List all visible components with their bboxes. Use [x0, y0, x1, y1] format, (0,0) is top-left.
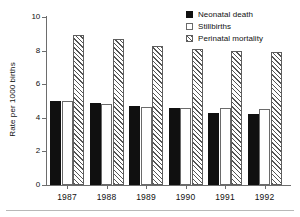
y-tick-label-2-wrap: 2	[22, 147, 40, 156]
y-tick-label-8: 8	[22, 47, 40, 55]
bar-group-1988	[90, 17, 124, 185]
legend-item-perinatal-mortality: Perinatal mortality	[186, 33, 298, 43]
y-tick-6	[42, 84, 46, 85]
white-outline-swatch-icon	[186, 23, 193, 30]
x-tick-label-1987: 1987	[45, 192, 89, 202]
x-tick-label-1988: 1988	[85, 192, 129, 202]
bar-neonatal-death-1987	[50, 101, 61, 185]
x-tick-label-1990: 1990	[164, 192, 208, 202]
x-tick-1989	[146, 185, 147, 189]
x-tick-1988	[107, 185, 108, 189]
bar-perinatal-mortality-1992	[271, 52, 282, 185]
x-tick-label-1989: 1989	[124, 192, 168, 202]
y-tick-2	[42, 151, 46, 152]
bar-perinatal-mortality-1988	[113, 39, 124, 185]
x-tick-1987	[67, 185, 68, 189]
legend-item-neonatal-death: Neonatal death	[186, 9, 298, 19]
bar-perinatal-mortality-1987	[73, 35, 84, 185]
bar-stillbirths-1989	[141, 107, 152, 185]
y-tick-8	[42, 51, 46, 52]
y-tick-label-10: 10	[22, 13, 40, 21]
bar-stillbirths-1991	[220, 108, 231, 185]
y-tick-label-2: 2	[22, 147, 40, 155]
x-tick-label-1992: 1992	[243, 192, 287, 202]
legend-label-stillbirths: Stillbirths	[198, 22, 231, 31]
bar-neonatal-death-1988	[90, 103, 101, 185]
bar-stillbirths-1992	[259, 109, 270, 185]
bar-neonatal-death-1989	[129, 106, 140, 185]
bar-perinatal-mortality-1991	[231, 51, 242, 185]
bar-stillbirths-1987	[62, 101, 73, 185]
bar-neonatal-death-1990	[169, 108, 180, 185]
y-tick-label-4-wrap: 4	[22, 114, 40, 123]
y-tick-10	[42, 17, 46, 18]
legend-label-neonatal-death: Neonatal death	[198, 10, 253, 19]
legend-label-perinatal-mortality: Perinatal mortality	[198, 34, 263, 43]
y-tick-label-8-wrap: 8	[22, 47, 40, 56]
diagonal-hatch-swatch-icon	[186, 35, 193, 42]
bar-stillbirths-1990	[180, 108, 191, 185]
y-tick-4	[42, 118, 46, 119]
solid-black-swatch-icon	[186, 11, 193, 18]
y-tick-0	[42, 185, 46, 186]
bar-perinatal-mortality-1990	[192, 49, 203, 185]
y-axis-title: Rate per 1000 births	[8, 40, 17, 160]
x-tick-1991	[225, 185, 226, 189]
bar-neonatal-death-1992	[248, 114, 259, 185]
y-tick-label-0: 0	[22, 181, 40, 189]
bar-perinatal-mortality-1989	[152, 46, 163, 185]
y-tick-label-4: 4	[22, 114, 40, 122]
bar-group-1989	[129, 17, 163, 185]
legend-item-stillbirths: Stillbirths	[186, 21, 298, 31]
page-divider	[6, 210, 294, 211]
x-tick-label-1991: 1991	[203, 192, 247, 202]
y-tick-label-6: 6	[22, 80, 40, 88]
y-tick-label-0-wrap: 0	[22, 181, 40, 190]
x-tick-1992	[265, 185, 266, 189]
chart-figure: Rate per 1000 births 10 8 6 4 2 0 198719…	[0, 0, 300, 217]
y-tick-label-6-wrap: 6	[22, 80, 40, 89]
bar-neonatal-death-1991	[208, 113, 219, 185]
bar-group-1987	[50, 17, 84, 185]
y-tick-label-10-wrap: 10	[22, 13, 40, 22]
bar-stillbirths-1988	[101, 104, 112, 185]
x-tick-1990	[186, 185, 187, 189]
x-axis-line	[46, 185, 291, 186]
chart-legend: Neonatal death Stillbirths Perinatal mor…	[186, 9, 298, 45]
